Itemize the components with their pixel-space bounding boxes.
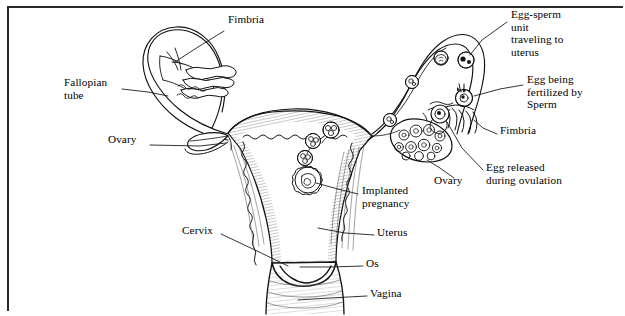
label-egg-being-fertilized: Egg being fertilized by Sperm [527, 73, 583, 111]
egg-sperm-unit [458, 52, 474, 68]
label-egg-sperm-unit: Egg-sperm unit traveling to uterus [511, 8, 563, 58]
label-uterus: Uterus [377, 226, 407, 239]
illustration-group [122, 22, 523, 314]
egg-stage-morula-3 [298, 151, 313, 166]
fallopian-tube-left [143, 27, 236, 140]
egg-in-tube-1 [384, 114, 397, 127]
egg-released-during-ovulation [431, 105, 449, 123]
figure-page: Fimbria Fallopian tube Ovary Egg-sperm u… [0, 0, 625, 316]
fimbriae-left-fingers [177, 66, 236, 99]
label-fallopian-tube: Fallopian tube [64, 76, 107, 101]
label-cervix: Cervix [182, 224, 213, 237]
egg-stage-morula-2 [306, 134, 321, 149]
label-os: Os [366, 257, 379, 270]
leader-egg-sperm-unit [470, 22, 507, 55]
label-ovary-right: Ovary [434, 174, 462, 187]
label-fimbria-right: Fimbria [500, 124, 536, 137]
ovary-right [390, 117, 452, 162]
label-ovary-left: Ovary [108, 133, 136, 146]
egg-stage-morula-1 [323, 122, 339, 138]
label-fimbria-left: Fimbria [228, 13, 264, 26]
egg-in-tube-2 [406, 76, 419, 89]
label-implanted-pregnancy: Implanted pregnancy [362, 184, 410, 209]
egg-in-tube-3 [434, 51, 448, 65]
label-egg-released: Egg released during ovulation [486, 161, 562, 186]
label-vagina: Vagina [370, 287, 402, 300]
